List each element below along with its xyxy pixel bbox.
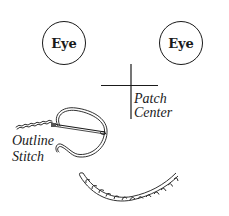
diagram-drawings — [0, 0, 229, 216]
twisted-rope-smile-icon — [79, 173, 178, 201]
outline-label: Outline — [12, 134, 54, 148]
patch-label: Patch — [134, 92, 167, 106]
face-patch-diagram: Eye Eye Patch Ce — [0, 0, 229, 216]
center-label: Center — [134, 106, 172, 120]
stitch-label: Stitch — [12, 150, 44, 164]
